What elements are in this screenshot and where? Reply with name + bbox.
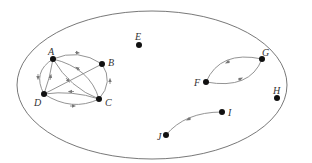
edge-g-f (206, 57, 262, 82)
edge-i-j (166, 112, 222, 135)
label-e: E (134, 31, 141, 42)
edge-c-b (99, 64, 107, 99)
graph-diagram: A B C D E F G H I J (0, 0, 312, 163)
set-boundary (17, 11, 287, 159)
node-d (41, 91, 47, 97)
label-h: H (272, 85, 281, 96)
node-f (203, 79, 209, 85)
label-d: D (33, 97, 42, 108)
edges (38, 53, 262, 136)
edge-d-a (44, 59, 53, 94)
graph-canvas: A B C D E F G H I J (0, 0, 312, 163)
edge-f-g (206, 59, 262, 84)
node-labels: A B C D E F G H I J (33, 31, 281, 142)
node-b (99, 61, 105, 67)
label-b: B (108, 57, 114, 68)
label-f: F (193, 77, 201, 88)
label-g: G (262, 47, 269, 58)
edge-d-b (44, 64, 102, 94)
label-i: I (227, 107, 232, 118)
node-e (136, 42, 142, 48)
node-i (219, 109, 225, 115)
node-j (163, 132, 169, 138)
label-a: A (47, 46, 55, 57)
nodes (41, 42, 280, 138)
node-c (96, 96, 102, 102)
edge-a-b (53, 55, 102, 64)
label-c: C (105, 97, 112, 108)
label-j: J (157, 131, 162, 142)
